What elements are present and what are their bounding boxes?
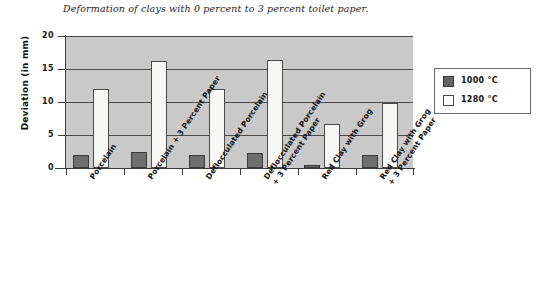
legend-swatch-icon bbox=[443, 95, 454, 106]
legend-swatch-icon bbox=[443, 76, 454, 87]
bar-series1-cat2 bbox=[131, 152, 147, 168]
chart-legend: 1000 °C 1280 °C bbox=[434, 68, 531, 114]
x-axis-tick bbox=[413, 169, 414, 175]
x-axis-tick bbox=[298, 169, 299, 175]
legend-label: 1000 °C bbox=[461, 76, 498, 85]
bar-series1-cat3 bbox=[189, 155, 205, 168]
y-tick-label-text: 10 bbox=[30, 97, 54, 106]
x-axis-line bbox=[55, 168, 415, 169]
x-axis-tick bbox=[124, 169, 125, 175]
x-axis-tick bbox=[182, 169, 183, 175]
y-tick-label-text: 0 bbox=[30, 163, 54, 172]
bar-series1-cat1 bbox=[73, 155, 89, 168]
y-tick-label-0: 0 bbox=[28, 163, 54, 173]
y-tick-label-text: 20 bbox=[30, 31, 54, 40]
bar-series1-cat5 bbox=[304, 165, 320, 168]
chart-figure: Deformation of clays with 0 percent to 3… bbox=[0, 0, 542, 293]
legend-label: 1280 °C bbox=[461, 95, 498, 104]
y-tick-label-text: 5 bbox=[30, 130, 54, 139]
y-tick-label-15: 15 bbox=[28, 64, 54, 74]
x-axis-tick bbox=[66, 169, 67, 175]
y-tick-label-5: 5 bbox=[28, 130, 54, 140]
x-axis-tick bbox=[240, 169, 241, 175]
y-tick-label-20: 20 bbox=[28, 31, 54, 41]
bar-series1-cat4 bbox=[247, 153, 263, 168]
y-tick-label-10: 10 bbox=[28, 97, 54, 107]
bar-series1-cat6 bbox=[362, 155, 378, 168]
y-tick-label-text: 15 bbox=[30, 64, 54, 73]
y-axis-title: Deviation (in mm) bbox=[20, 28, 30, 138]
x-axis-tick bbox=[356, 169, 357, 175]
chart-title: Deformation of clays with 0 percent to 3… bbox=[63, 3, 403, 14]
